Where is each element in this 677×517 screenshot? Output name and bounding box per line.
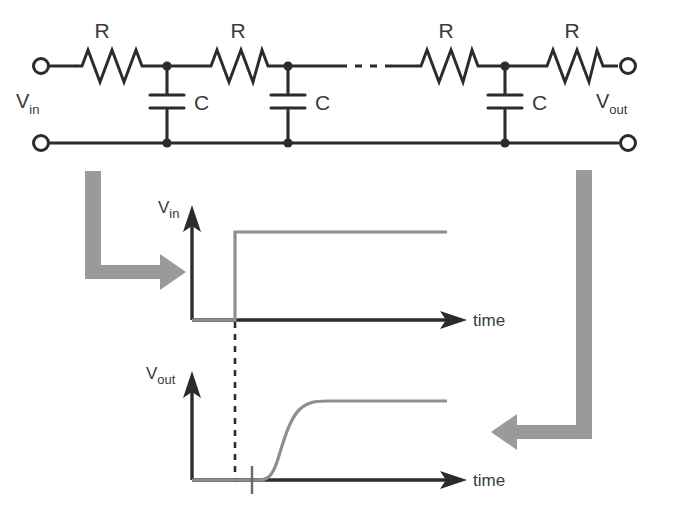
node-dot-top-1	[162, 61, 171, 70]
graph-vin: Vin time	[158, 198, 505, 330]
resistor-1-label: R	[94, 19, 109, 42]
vin-x-axis-label: time	[473, 311, 505, 330]
vin-y-axis-label: Vin	[158, 198, 179, 221]
capacitor-3-label: C	[532, 91, 547, 114]
input-terminal-label-base: V	[16, 90, 30, 112]
vout-y-axis-label-base: V	[146, 364, 158, 383]
vout-response-trace	[192, 401, 447, 480]
vin-step-trace	[192, 232, 447, 320]
figure-root: R R R R C C C Vin Vout Vin	[0, 0, 677, 517]
node-dot-top-2	[283, 61, 292, 70]
node-dot-bottom-2	[283, 138, 292, 147]
vin-y-axis-label-sub: in	[169, 206, 179, 221]
vout-y-axis-label-sub: out	[157, 372, 175, 387]
resistor-2-symbol	[205, 50, 288, 82]
graph-vout: Vout time	[146, 364, 505, 494]
node-dot-bottom-3	[500, 138, 509, 147]
resistor-3-symbol	[415, 50, 505, 82]
circuit-diagram: R R R R C C C Vin Vout	[16, 19, 636, 151]
input-terminal-top	[34, 59, 49, 74]
input-terminal-bottom	[34, 136, 49, 151]
capacitor-2-label: C	[315, 91, 330, 114]
vout-x-axis-label: time	[473, 471, 505, 490]
output-terminal-label-sub: out	[609, 102, 627, 117]
output-terminal-bottom	[621, 136, 636, 151]
output-terminal-top	[621, 59, 636, 74]
resistor-4-symbol	[541, 50, 618, 82]
node-dot-top-3	[500, 61, 509, 70]
node-dot-bottom-1	[162, 138, 171, 147]
vout-y-axis-label: Vout	[146, 364, 176, 387]
resistor-3-label: R	[438, 19, 453, 42]
input-terminal-label: Vin	[16, 90, 39, 117]
output-terminal-label-base: V	[596, 90, 610, 112]
resistor-2-label: R	[230, 19, 245, 42]
input-flow-arrow	[85, 171, 186, 290]
capacitor-1-label: C	[194, 91, 209, 114]
input-terminal-label-sub: in	[29, 102, 39, 117]
output-terminal-label: Vout	[596, 90, 628, 117]
output-flow-arrow	[491, 170, 592, 450]
vin-y-axis-label-base: V	[158, 198, 170, 217]
resistor-1-symbol	[75, 50, 167, 82]
resistor-4-label: R	[564, 19, 579, 42]
